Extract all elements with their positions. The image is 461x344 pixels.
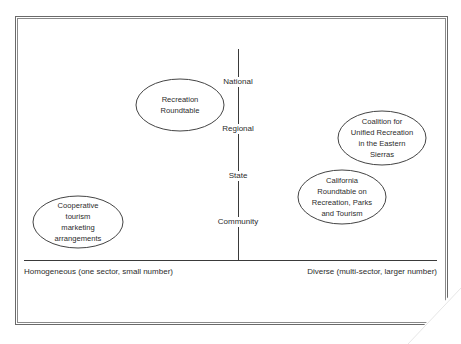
level-label-regional: Regional [220,124,256,134]
x-axis-left-label: Homogeneous (one sector, small number) [24,266,173,277]
x-axis-right-label: Diverse (multi-sector, larger number) [307,266,437,277]
node-california-roundtable: California Roundtable on Recreation, Par… [298,170,386,224]
node-label: Recreation Roundtable [161,94,200,116]
node-recreation-roundtable: Recreation Roundtable [136,79,224,131]
level-label-state: State [227,171,250,181]
node-label: Coalition for Unified Recreation in the … [351,116,413,160]
page-curl [408,282,461,344]
node-label: Cooperative tourism marketing arrangemen… [55,200,102,244]
node-cooperative-tourism: Cooperative tourism marketing arrangemen… [33,196,123,248]
level-label-national: National [221,77,254,87]
node-label: California Roundtable on Recreation, Par… [312,175,372,219]
level-label-community: Community [216,217,260,227]
node-coalition-eastern-sierras: Coalition for Unified Recreation in the … [338,111,426,165]
